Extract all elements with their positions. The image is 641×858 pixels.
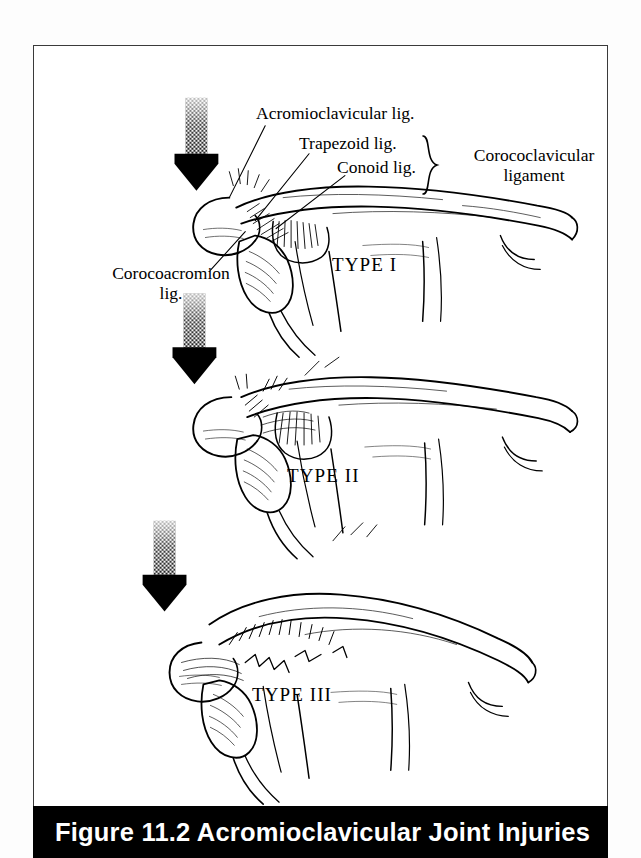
label-coracoacromial-ligament: Corocoacromion lig. — [91, 264, 251, 303]
label-acromioclavicular-ligament: Acromioclavicular lig. — [256, 104, 414, 124]
illustration-area: Acromioclavicular lig. Trapezoid lig. Co… — [34, 46, 607, 856]
coracoclavicular-fibers — [277, 221, 318, 249]
force-arrow-3 — [143, 521, 187, 612]
force-arrow-1 — [175, 98, 219, 191]
label-coracoclavicular-line2: ligament — [450, 166, 607, 186]
label-trapezoid-ligament: Trapezoid lig. — [299, 134, 397, 154]
label-coracoacromial-line2: lig. — [91, 284, 251, 304]
force-arrow-2 — [173, 293, 217, 384]
panel-type-2-art — [173, 293, 578, 558]
label-coracoacromial-line1: Corocoacromion — [112, 263, 230, 283]
figure-caption-text: Figure 11.2 Acromioclavicular Joint Inju… — [33, 818, 590, 847]
figure-caption-bar: Figure 11.2 Acromioclavicular Joint Inju… — [33, 806, 608, 858]
panel-type-3-art — [143, 521, 536, 804]
grouping-brace-icon — [420, 134, 446, 196]
figure-frame: Acromioclavicular lig. Trapezoid lig. Co… — [33, 45, 608, 857]
label-conoid-ligament: Conoid lig. — [337, 158, 416, 178]
label-coracoclavicular-ligament: Corococlavicular ligament — [450, 146, 607, 185]
panel-label-type-3: TYPE III — [252, 684, 332, 706]
panel-label-type-1: TYPE I — [332, 254, 397, 276]
figure-root: Acromioclavicular lig. Trapezoid lig. Co… — [0, 0, 641, 858]
panel-label-type-2: TYPE II — [287, 465, 360, 487]
label-coracoclavicular-line1: Corococlavicular — [474, 145, 595, 165]
